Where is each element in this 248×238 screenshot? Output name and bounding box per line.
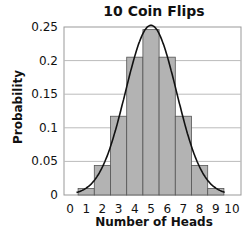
x-tick-label: 0 xyxy=(66,202,74,216)
x-tick-label: 3 xyxy=(115,202,123,216)
y-tick-label: 0.05 xyxy=(31,154,58,168)
x-tick-label: 7 xyxy=(180,202,188,216)
x-tick-label: 9 xyxy=(212,202,220,216)
histogram-plot: 00.050.10.150.20.25012345678910 xyxy=(0,0,248,238)
x-tick-label: 2 xyxy=(99,202,107,216)
histogram-bar xyxy=(175,116,191,195)
histogram-bar xyxy=(192,165,208,195)
x-tick-label: 6 xyxy=(163,202,171,216)
histogram-bar xyxy=(143,30,159,195)
x-tick-label: 5 xyxy=(147,202,155,216)
x-tick-label: 4 xyxy=(131,202,139,216)
histogram-bar xyxy=(111,116,127,195)
y-tick-label: 0 xyxy=(50,188,58,202)
histogram-bar xyxy=(94,165,110,195)
y-tick-label: 0.2 xyxy=(39,54,58,68)
x-tick-label: 10 xyxy=(224,202,239,216)
y-tick-label: 0.25 xyxy=(31,20,58,34)
y-tick-label: 0.1 xyxy=(39,121,58,135)
x-tick-label: 8 xyxy=(196,202,204,216)
y-tick-label: 0.15 xyxy=(31,87,58,101)
x-tick-label: 1 xyxy=(82,202,90,216)
